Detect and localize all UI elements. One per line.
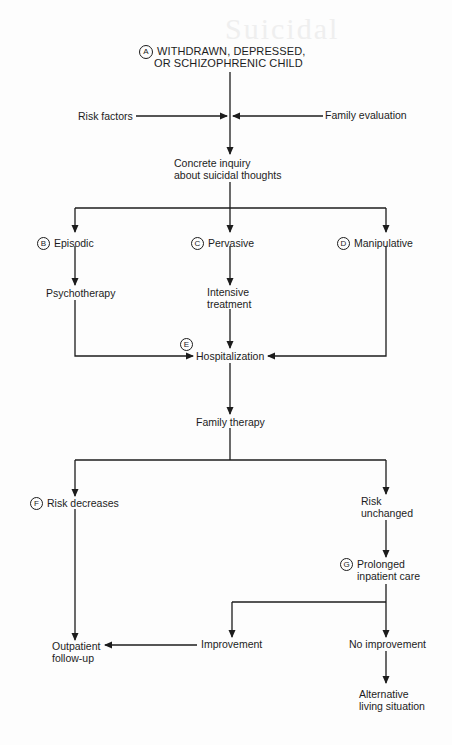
intensive-line1: Intensive bbox=[207, 286, 251, 298]
prolonged-line2: inpatient care bbox=[357, 570, 420, 582]
marker-f-icon: F bbox=[30, 497, 43, 510]
psychotherapy-label: Psychotherapy bbox=[46, 287, 115, 299]
marker-d-icon: D bbox=[337, 237, 350, 250]
node-d-manipulative: D Manipulative bbox=[337, 237, 413, 250]
intensive-line2: treatment bbox=[207, 298, 251, 310]
node-b-episodic: B Episodic bbox=[37, 237, 94, 250]
pervasive-label: Pervasive bbox=[208, 237, 254, 249]
improvement-label: Improvement bbox=[201, 638, 262, 650]
edge-manipulative-hospitalization bbox=[268, 246, 386, 356]
episodic-label: Episodic bbox=[54, 237, 94, 249]
hospitalization-label: Hospitalization bbox=[196, 350, 264, 362]
manipulative-label: Manipulative bbox=[354, 237, 413, 249]
concrete-inquiry-line2: about suicidal thoughts bbox=[174, 169, 281, 181]
node-risk-unchanged: Risk unchanged bbox=[361, 495, 413, 519]
node-g-prolonged: G Prolonged inpatient care bbox=[340, 558, 420, 582]
node-concrete-inquiry: Concrete inquiry about suicidal thoughts bbox=[174, 157, 281, 181]
marker-b-icon: B bbox=[37, 237, 50, 250]
edge-psychotherapy-hospitalization bbox=[75, 300, 193, 356]
node-a-line1: WITHDRAWN, DEPRESSED, bbox=[157, 45, 305, 57]
node-intensive-treatment: Intensive treatment bbox=[207, 286, 251, 310]
marker-c-icon: C bbox=[191, 237, 204, 250]
node-f-risk-decreases: F Risk decreases bbox=[30, 497, 119, 510]
node-a-line2: OR SCHIZOPHRENIC CHILD bbox=[154, 57, 305, 69]
risk-factors-label: Risk factors bbox=[78, 110, 133, 122]
risk-unchanged-line2: unchanged bbox=[361, 507, 413, 519]
flowchart-canvas: Suicidal bbox=[0, 0, 452, 745]
family-evaluation-label: Family evaluation bbox=[325, 109, 407, 121]
marker-g-icon: G bbox=[340, 558, 353, 571]
no-improvement-label: No improvement bbox=[349, 638, 426, 650]
prolonged-line1: Prolonged bbox=[357, 558, 420, 570]
alternative-line1: Alternative bbox=[359, 688, 425, 700]
node-alternative-living: Alternative living situation bbox=[359, 688, 425, 712]
outpatient-line1: Outpatient bbox=[52, 640, 100, 652]
alternative-line2: living situation bbox=[359, 700, 425, 712]
risk-unchanged-line1: Risk bbox=[361, 495, 413, 507]
node-c-pervasive: C Pervasive bbox=[191, 237, 254, 250]
node-outpatient: Outpatient follow-up bbox=[52, 640, 100, 664]
risk-decreases-label: Risk decreases bbox=[47, 497, 119, 509]
node-a: A WITHDRAWN, DEPRESSED, OR SCHIZOPHRENIC… bbox=[139, 45, 305, 69]
marker-a-icon: A bbox=[139, 45, 153, 59]
marker-e-icon: E bbox=[180, 338, 193, 351]
concrete-inquiry-line1: Concrete inquiry bbox=[174, 157, 281, 169]
family-therapy-label: Family therapy bbox=[196, 416, 265, 428]
outpatient-line2: follow-up bbox=[52, 652, 100, 664]
